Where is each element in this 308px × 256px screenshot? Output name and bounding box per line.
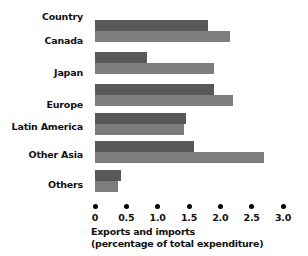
bar-canada-exports bbox=[95, 20, 208, 31]
bar-other-asia-imports bbox=[95, 152, 264, 163]
x-tick-label-6: 3.0 bbox=[270, 212, 296, 223]
x-tick-label-0: 0 bbox=[82, 212, 108, 223]
bar-japan-imports bbox=[95, 63, 214, 74]
bar-others-exports bbox=[95, 170, 121, 181]
bar-latin-america-exports bbox=[95, 113, 186, 124]
bar-latin-america-imports bbox=[95, 124, 184, 135]
plot-area bbox=[0, 0, 308, 200]
x-tick-dot-0 bbox=[93, 204, 98, 209]
x-tick-label-3: 1.5 bbox=[176, 212, 202, 223]
x-tick-dot-3 bbox=[187, 204, 192, 209]
x-tick-label-2: 1.0 bbox=[145, 212, 171, 223]
x-axis-title-line-2: (percentage of total expenditure) bbox=[91, 238, 301, 250]
x-tick-dot-2 bbox=[155, 204, 160, 209]
x-tick-label-4: 2.0 bbox=[207, 212, 233, 223]
x-tick-dot-6 bbox=[281, 204, 286, 209]
bar-europe-exports bbox=[95, 84, 214, 95]
bar-chart: Country Canada Japan Europe Latin Americ… bbox=[0, 0, 308, 256]
x-tick-dot-5 bbox=[249, 204, 254, 209]
bar-others-imports bbox=[95, 181, 118, 192]
x-tick-label-1: 0.5 bbox=[113, 212, 139, 223]
bar-canada-imports bbox=[95, 31, 230, 42]
bar-europe-imports bbox=[95, 95, 233, 106]
x-axis-title-line-1: Exports and imports bbox=[91, 226, 301, 238]
bar-other-asia-exports bbox=[95, 141, 194, 152]
x-tick-dot-1 bbox=[124, 204, 129, 209]
x-tick-dot-4 bbox=[218, 204, 223, 209]
x-axis-title: Exports and imports (percentage of total… bbox=[91, 226, 301, 249]
x-tick-label-5: 2.5 bbox=[239, 212, 265, 223]
bar-japan-exports bbox=[95, 52, 147, 63]
